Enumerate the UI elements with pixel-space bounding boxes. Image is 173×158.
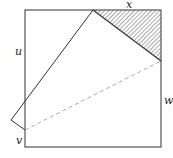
label-u: u	[15, 45, 22, 58]
label-x: x	[126, 0, 133, 11]
folded-square-diagram: x u v w	[0, 0, 173, 158]
dashed-line	[25, 61, 161, 130]
label-w: w	[164, 94, 173, 107]
label-v: v	[16, 134, 23, 147]
folded-flap-edge	[11, 10, 93, 130]
